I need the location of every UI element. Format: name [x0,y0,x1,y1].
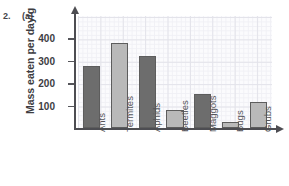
y-tick-label-100: 100 [38,100,55,111]
bar-chart: 100200300400 AntsTermitesAphidsBeetlesMa… [78,16,272,128]
y-axis-line [74,12,76,128]
cut-off-header-text [34,0,284,3]
y-tick-label-200: 200 [38,78,55,89]
y-axis-title: Mass eaten per day/g [24,1,36,121]
y-tick-label-300: 300 [38,55,55,66]
question-number: 2. [3,11,11,21]
x-label-termites: Termites [124,96,135,132]
x-axis-line [74,128,278,130]
y-axis-arrow-icon [71,6,79,14]
y-tick-label-400: 400 [38,33,55,44]
x-label-maggots: Maggots [207,96,218,132]
x-axis-arrow-icon [276,125,284,133]
